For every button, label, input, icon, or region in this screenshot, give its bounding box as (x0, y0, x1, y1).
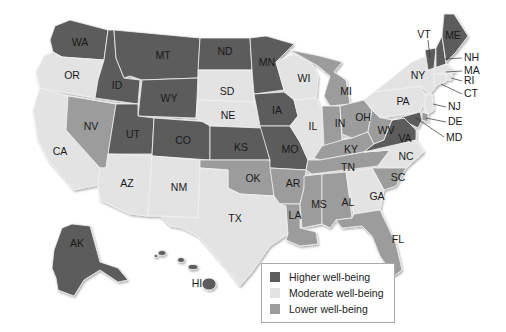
label-VA: VA (398, 132, 411, 144)
label-MS: MS (311, 198, 327, 210)
state-CT[interactable] (434, 74, 446, 86)
label-MD: MD (446, 131, 463, 143)
label-WI: WI (298, 72, 311, 84)
state-NJ[interactable] (424, 94, 434, 114)
label-WA: WA (72, 36, 89, 48)
label-NV: NV (84, 120, 99, 132)
label-MN: MN (259, 56, 275, 68)
label-NE: NE (221, 109, 236, 121)
label-TX: TX (228, 212, 241, 224)
label-NH: NH (464, 51, 479, 63)
label-CO: CO (175, 134, 191, 146)
label-CT: CT (464, 87, 479, 99)
us-map: WA OR CA NV ID MT WY UT CO AZ NM ND SD N… (0, 0, 506, 332)
label-NJ: NJ (448, 100, 461, 112)
label-TN: TN (341, 161, 355, 173)
label-ND: ND (217, 45, 233, 57)
state-RI[interactable] (446, 74, 452, 80)
label-IN: IN (335, 117, 346, 129)
state-HI[interactable] (154, 251, 216, 291)
state-AK[interactable] (52, 224, 128, 296)
label-UT: UT (126, 128, 141, 140)
label-IL: IL (309, 120, 318, 132)
legend-label-lower: Lower well-being (289, 303, 368, 315)
label-FL: FL (392, 233, 404, 245)
label-OH: OH (355, 111, 371, 123)
label-WY: WY (161, 92, 178, 104)
label-MO: MO (282, 143, 299, 155)
label-OK: OK (245, 172, 260, 184)
label-LA: LA (289, 209, 302, 221)
label-SD: SD (220, 85, 235, 97)
label-ID: ID (112, 79, 123, 91)
label-SC: SC (391, 171, 406, 183)
label-MT: MT (155, 49, 171, 61)
label-NC: NC (398, 150, 414, 162)
legend-swatch-higher (270, 272, 280, 282)
label-RI: RI (464, 74, 475, 86)
label-CA: CA (53, 145, 68, 157)
label-DE: DE (448, 115, 463, 127)
legend-item-moderate: Moderate well-being (270, 285, 386, 301)
label-KY: KY (344, 143, 358, 155)
label-OR: OR (64, 69, 80, 81)
label-KS: KS (234, 141, 248, 153)
label-AL: AL (342, 196, 355, 208)
map-legend: Higher well-being Moderate well-being Lo… (261, 263, 395, 323)
label-ME: ME (445, 29, 461, 41)
legend-swatch-lower (270, 304, 280, 314)
label-WV: WV (378, 124, 395, 136)
label-NY: NY (411, 69, 426, 81)
label-HI: HI (192, 277, 203, 289)
label-IA: IA (272, 104, 282, 116)
label-GA: GA (369, 190, 384, 202)
legend-swatch-moderate (270, 288, 280, 298)
label-PA: PA (396, 95, 409, 107)
state-DE[interactable] (422, 112, 428, 122)
label-NM: NM (171, 181, 187, 193)
label-AZ: AZ (120, 177, 134, 189)
legend-item-higher: Higher well-being (270, 269, 386, 285)
label-AK: AK (70, 237, 84, 249)
label-AR: AR (286, 177, 301, 189)
legend-label-higher: Higher well-being (289, 271, 370, 283)
legend-label-moderate: Moderate well-being (289, 287, 384, 299)
label-VT: VT (417, 28, 431, 40)
label-MI: MI (340, 85, 352, 97)
legend-item-lower: Lower well-being (270, 301, 386, 317)
